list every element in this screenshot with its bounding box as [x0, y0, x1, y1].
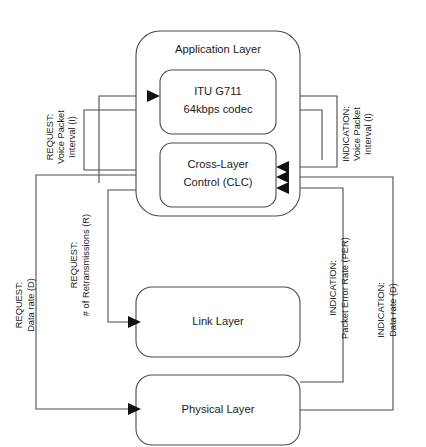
cross-layer-control-label-line1: Cross-Layer	[188, 158, 249, 170]
diagram-canvas: Application Layer ITU G711 64kbps codec …	[0, 0, 426, 447]
cross-layer-control-diagram: Application Layer ITU G711 64kbps codec …	[0, 0, 426, 447]
label-request-data-rate-line1: REQUEST:	[14, 282, 24, 329]
label-indication-interval-line3: Interval (I)	[363, 113, 373, 155]
label-request-interval-line2: Voice Packet	[56, 110, 66, 164]
label-request-interval-line3: Interval (I)	[67, 116, 77, 158]
label-request-retransmissions-line2: # of Retransmissions (R)	[81, 214, 91, 316]
label-indication-per-line1: INDICATION:	[328, 260, 338, 316]
label-request-retransmissions-line1: REQUEST:	[69, 242, 79, 289]
physical-layer-label: Physical Layer	[182, 403, 255, 415]
application-layer-label: Application Layer	[175, 43, 261, 55]
label-request-data-rate: REQUEST: Data rate (D)	[14, 278, 36, 332]
label-indication-per-line2: Packet Error Rate (PER)	[340, 237, 350, 339]
label-request-voice-packet-interval: REQUEST: Voice Packet Interval (I)	[45, 110, 77, 164]
label-indication-data-rate-line1: INDICATION:	[376, 282, 386, 338]
label-indication-interval-line1: INDICATION:	[341, 106, 351, 162]
cross-layer-control-label-line2: Control (CLC)	[183, 176, 252, 188]
label-request-data-rate-line2: Data rate (D)	[26, 278, 36, 332]
label-indication-interval-line2: Voice Packet	[352, 107, 362, 161]
label-indication-voice-packet-interval: INDICATION: Voice Packet Interval (I)	[341, 106, 373, 162]
label-indication-data-rate-line2: Data rate (D)	[388, 283, 398, 337]
label-request-retransmissions: REQUEST: # of Retransmissions (R)	[69, 214, 91, 316]
label-request-interval-line1: REQUEST:	[45, 114, 55, 161]
link-layer-label: Link Layer	[192, 315, 244, 327]
label-indication-packet-error-rate: INDICATION: Packet Error Rate (PER)	[328, 237, 350, 339]
itu-g711-codec-label-line2: 64kbps codec	[183, 103, 252, 115]
label-indication-data-rate: INDICATION: Data rate (D)	[376, 282, 398, 338]
itu-g711-codec-label-line1: ITU G711	[194, 85, 242, 97]
